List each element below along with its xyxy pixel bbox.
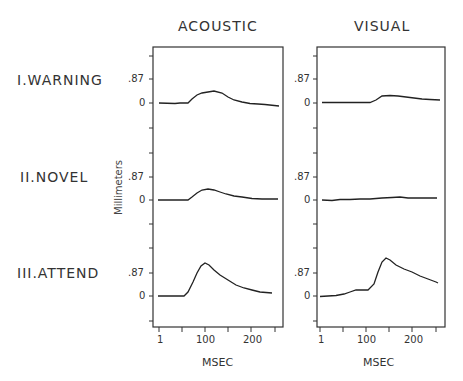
trace-visual-novel [322, 197, 437, 201]
acoustic-panel-frame [153, 47, 283, 327]
y-ticks [149, 56, 317, 321]
trace-acoustic-novel [158, 189, 278, 200]
trace-acoustic-warning [159, 91, 279, 106]
chart-canvas [0, 0, 463, 381]
trace-visual-warning [322, 96, 440, 103]
visual-panel-frame [317, 47, 445, 327]
trace-visual-attend [320, 258, 438, 297]
trace-acoustic-attend [158, 263, 272, 296]
waveforms [158, 91, 440, 297]
x-ticks [159, 327, 436, 332]
